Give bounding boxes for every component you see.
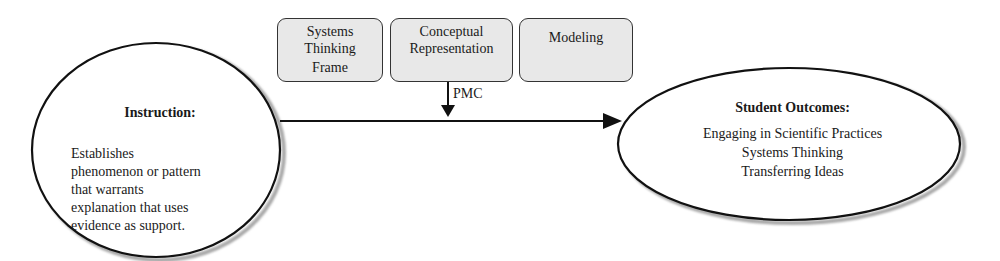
- outcomes-list: Engaging in Scientific Practices Systems…: [660, 124, 925, 181]
- outcome-item: Systems Thinking: [660, 143, 925, 162]
- outcomes-title: Student Outcomes:: [690, 100, 895, 116]
- box-line: Conceptual: [410, 23, 494, 40]
- box-line: Systems: [304, 23, 355, 40]
- instruction-line: that warrants: [71, 181, 241, 199]
- box-line: Frame: [304, 59, 355, 76]
- box-conceptual-representation: Conceptual Representation: [390, 18, 513, 82]
- box-systems-thinking-frame: Systems Thinking Frame: [277, 18, 383, 82]
- box-line: Thinking: [304, 40, 355, 57]
- box-line: Representation: [410, 40, 494, 57]
- instruction-line: Establishes: [71, 145, 241, 163]
- instruction-body: Establishes phenomenon or pattern that w…: [71, 145, 241, 235]
- instruction-line: phenomenon or pattern: [71, 163, 241, 181]
- box-line: Modeling: [549, 29, 603, 46]
- instruction-line: evidence as support.: [71, 217, 241, 235]
- outcome-item: Transferring Ideas: [660, 162, 925, 181]
- pmc-arrow-head-icon: [441, 105, 455, 117]
- instruction-line: explanation that uses: [71, 199, 241, 217]
- main-arrow-head-icon: [603, 113, 622, 129]
- box-modeling: Modeling: [519, 18, 633, 82]
- outcome-item: Engaging in Scientific Practices: [660, 124, 925, 143]
- pmc-label: PMC: [453, 86, 483, 102]
- instruction-title: Instruction:: [100, 105, 220, 121]
